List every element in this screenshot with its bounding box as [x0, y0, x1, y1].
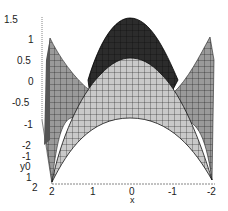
x-tick: -1	[168, 187, 177, 197]
surface-left-edge	[44, 38, 50, 145]
surface-plot	[0, 0, 228, 211]
x-tick: -2	[207, 187, 216, 197]
z-tick: 1	[28, 35, 34, 45]
x-tick: 2	[49, 187, 55, 197]
z-tick: 0.5	[17, 56, 31, 66]
y-tick: y0	[20, 162, 31, 172]
z-tick: 1.5	[4, 15, 18, 25]
z-tick: -0.5	[12, 98, 29, 108]
y-tick: 2	[32, 183, 38, 193]
z-tick: -2	[22, 141, 31, 151]
z-tick: 0	[28, 77, 34, 87]
y-tick: 1	[26, 173, 32, 183]
z-tick: -1	[24, 120, 33, 130]
x-axis-title: x	[130, 195, 135, 205]
x-tick: 1	[90, 187, 96, 197]
